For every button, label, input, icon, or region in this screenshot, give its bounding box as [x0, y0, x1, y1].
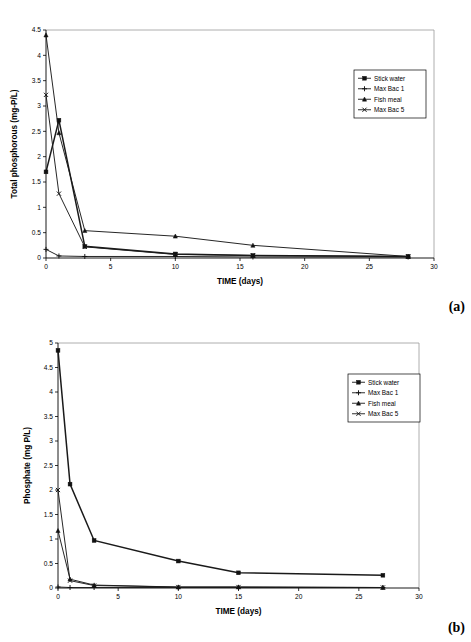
chart-total-phosphorous: 00.511.522.533.544.5051015202530TIME (da…: [0, 0, 471, 321]
legend-marker-stick-water: [357, 380, 361, 384]
data-point-stick-water: [381, 573, 385, 577]
data-point-max-bac-1: [44, 247, 49, 252]
x-tick-label: 20: [295, 593, 303, 600]
x-tick-label: 15: [236, 263, 244, 270]
series-line-stick-water: [58, 350, 383, 575]
y-tick-label: 4.5: [32, 26, 41, 33]
y-tick-label: 2.5: [44, 462, 53, 469]
y-tick-label: 3.5: [32, 77, 41, 84]
data-point-fish-meal: [57, 131, 61, 135]
y-tick-label: 5: [49, 339, 53, 346]
series-line-fish-meal: [58, 531, 383, 588]
x-tick-label: 20: [301, 263, 309, 270]
y-tick-label: 1: [37, 204, 41, 211]
data-point-max-bac-1: [68, 585, 73, 590]
series-line-fish-meal: [46, 35, 408, 256]
chart-phosphate: 00.511.522.533.544.55051015202530TIME (d…: [0, 321, 471, 642]
x-tick-label: 5: [109, 263, 113, 270]
y-tick-label: 0: [49, 584, 53, 591]
panel-label-b: (b): [448, 620, 465, 636]
legend-label: Max Bac 5: [368, 410, 399, 417]
data-point-stick-water: [176, 559, 180, 563]
y-tick-label: 2.5: [32, 128, 41, 135]
legend-label: Fish meal: [368, 400, 396, 407]
x-tick-label: 15: [235, 593, 243, 600]
data-point-stick-water: [56, 348, 60, 352]
y-axis-title: Phosphate (mg P/L): [23, 427, 32, 504]
data-point-stick-water: [68, 482, 72, 486]
legend-label: Max Bac 1: [374, 85, 405, 92]
legend-label: Max Bac 5: [374, 106, 405, 113]
x-tick-label: 0: [44, 263, 48, 270]
y-tick-label: 1.5: [32, 178, 41, 185]
x-tick-label: 0: [56, 593, 60, 600]
y-tick-label: 2: [37, 153, 41, 160]
data-point-max-bac-1: [56, 585, 61, 590]
y-axis-title: Total phosphorous (mg-P/L): [10, 89, 19, 198]
y-tick-label: 1.5: [44, 511, 53, 518]
y-tick-label: 2: [49, 486, 53, 493]
legend-label: Fish meal: [374, 96, 402, 103]
x-axis-title: TIME (days): [216, 607, 262, 616]
data-point-fish-meal: [44, 33, 48, 37]
x-tick-label: 5: [116, 593, 120, 600]
y-tick-label: 3: [49, 437, 53, 444]
x-tick-label: 25: [366, 263, 374, 270]
y-tick-label: 1: [49, 535, 53, 542]
data-point-stick-water: [92, 539, 96, 543]
x-axis-title: TIME (days): [217, 277, 263, 286]
data-point-fish-meal: [56, 528, 60, 532]
series-line-max-bac-5: [58, 490, 383, 588]
x-tick-label: 25: [355, 593, 363, 600]
y-tick-label: 4: [49, 388, 53, 395]
x-tick-label: 10: [172, 263, 180, 270]
x-tick-label: 30: [430, 263, 438, 270]
legend-label: Stick water: [368, 379, 400, 386]
data-point-stick-water: [44, 170, 48, 174]
y-tick-label: 4: [37, 52, 41, 59]
legend-marker-stick-water: [363, 76, 367, 80]
y-tick-label: 0.5: [44, 560, 53, 567]
y-tick-label: 0.5: [32, 229, 41, 236]
series-line-max-bac-5: [46, 95, 408, 257]
y-tick-label: 0: [37, 254, 41, 261]
figure-panel-b: 00.511.522.533.544.55051015202530TIME (d…: [0, 321, 471, 642]
x-tick-label: 30: [415, 593, 423, 600]
y-tick-label: 3.5: [44, 413, 53, 420]
x-tick-label: 10: [175, 593, 183, 600]
legend-label: Stick water: [374, 75, 406, 82]
legend-label: Max Bac 1: [368, 389, 399, 396]
y-tick-label: 4.5: [44, 364, 53, 371]
figure-panel-a: 00.511.522.533.544.5051015202530TIME (da…: [0, 0, 471, 321]
series-line-stick-water: [46, 120, 408, 256]
data-point-stick-water: [237, 571, 241, 575]
panel-label-a: (a): [449, 299, 465, 315]
y-tick-label: 3: [37, 102, 41, 109]
